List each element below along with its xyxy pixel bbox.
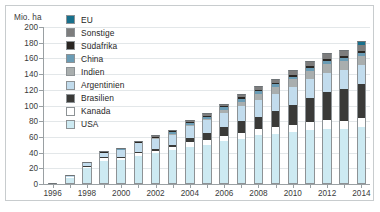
legend-label: China — [81, 54, 103, 64]
legend-swatch-s-dafrika — [66, 41, 75, 50]
legend-swatch-eu — [66, 15, 75, 24]
y-axis-tick — [39, 137, 44, 138]
x-axis-tick-label: 2012 — [318, 189, 336, 198]
legend-item: Brasilien — [66, 92, 124, 105]
y-axis-tick-label: 200 — [6, 23, 38, 32]
x-axis-tick-label: 2014 — [352, 189, 370, 198]
x-axis-tick-label: 2006 — [215, 189, 233, 198]
legend-label: Sonstige — [81, 28, 114, 38]
x-axis-tick — [344, 184, 345, 188]
y-axis-tick — [39, 106, 44, 107]
y-axis-tick — [39, 153, 44, 154]
legend-swatch-usa — [66, 120, 75, 129]
y-axis-tick — [39, 58, 44, 59]
x-axis-tick — [138, 184, 139, 188]
y-axis-tick — [39, 27, 44, 28]
y-axis-tick-label: 60 — [6, 132, 38, 141]
x-axis-tick — [70, 184, 71, 188]
legend-swatch-kanada — [66, 107, 75, 116]
legend-item: USA — [66, 118, 124, 131]
y-axis-tick — [39, 43, 44, 44]
x-axis-tick — [207, 184, 208, 188]
x-axis-tick-label: 1998 — [78, 189, 96, 198]
x-axis-tick — [87, 184, 88, 188]
y-axis-tick-label: 40 — [6, 148, 38, 157]
y-axis-tick — [39, 121, 44, 122]
y-axis-tick — [39, 74, 44, 75]
legend-label: Brasilien — [81, 93, 114, 103]
legend-label: EU — [81, 15, 93, 25]
legend-swatch-argentinien — [66, 81, 75, 90]
x-axis-tick — [156, 184, 157, 188]
x-axis-tick-label: 2004 — [181, 189, 199, 198]
legend-item: Argentinien — [66, 78, 124, 91]
legend-item: China — [66, 52, 124, 65]
x-axis-tick — [53, 184, 54, 188]
legend-item: Indien — [66, 65, 124, 78]
x-axis-tick — [361, 184, 362, 188]
y-axis-tick — [39, 90, 44, 91]
chart-legend: EUSonstigeSüdafrikaChinaIndienArgentinie… — [66, 13, 124, 131]
legend-label: Indien — [81, 67, 104, 77]
x-axis-tick — [104, 184, 105, 188]
y-axis-tick-label: 80 — [6, 117, 38, 126]
legend-label: Südafrika — [81, 41, 117, 51]
legend-swatch-china — [66, 54, 75, 63]
x-axis-tick — [293, 184, 294, 188]
x-axis-tick — [276, 184, 277, 188]
x-axis-tick — [327, 184, 328, 188]
y-axis-labels: 020406080100120140160180200 — [0, 0, 380, 212]
y-axis-tick-label: 140 — [6, 70, 38, 79]
y-axis-tick-label: 0 — [6, 180, 38, 189]
legend-item: Südafrika — [66, 39, 124, 52]
y-axis-tick-label: 20 — [6, 164, 38, 173]
x-axis-tick — [310, 184, 311, 188]
x-axis-tick — [241, 184, 242, 188]
chart-figure: Mio. ha 020406080100120140160180200 1996… — [0, 0, 380, 212]
legend-swatch-indien — [66, 67, 75, 76]
y-axis-tick — [39, 168, 44, 169]
x-axis-tick — [173, 184, 174, 188]
x-axis-tick — [258, 184, 259, 188]
y-axis-tick-label: 180 — [6, 38, 38, 47]
x-axis-tick-label: 1996 — [43, 189, 61, 198]
y-axis-tick-label: 160 — [6, 54, 38, 63]
legend-item: Sonstige — [66, 26, 124, 39]
legend-swatch-sonstige — [66, 28, 75, 37]
legend-swatch-brasilien — [66, 94, 75, 103]
x-axis-tick — [121, 184, 122, 188]
legend-item: EU — [66, 13, 124, 26]
legend-label: Kanada — [81, 106, 110, 116]
x-axis-tick — [190, 184, 191, 188]
legend-item: Kanada — [66, 105, 124, 118]
y-axis-tick-label: 120 — [6, 85, 38, 94]
legend-label: Argentinien — [81, 80, 124, 90]
x-axis-tick-label: 2002 — [146, 189, 164, 198]
x-axis-tick-label: 2008 — [249, 189, 267, 198]
y-axis-tick — [39, 184, 44, 185]
x-axis-tick-label: 2010 — [284, 189, 302, 198]
x-axis-tick-label: 2000 — [112, 189, 130, 198]
y-axis-tick-label: 100 — [6, 101, 38, 110]
legend-label: USA — [81, 119, 99, 129]
x-axis-tick — [224, 184, 225, 188]
